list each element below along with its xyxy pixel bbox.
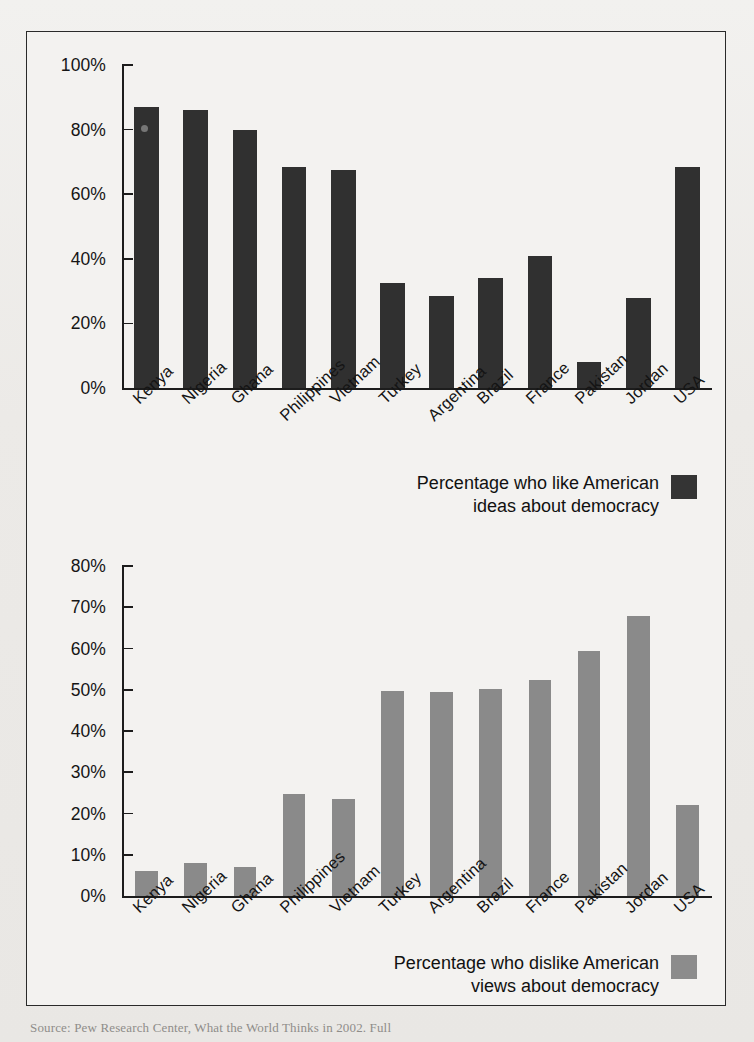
- plot-area-top: 0%20%40%60%80%100%: [122, 65, 712, 388]
- y-axis-tick-label: 60%: [36, 638, 106, 659]
- legend-swatch-dark: [671, 475, 697, 499]
- bar: [430, 692, 453, 896]
- y-axis-tick-label: 50%: [36, 679, 106, 700]
- y-axis-tick-label: 40%: [36, 721, 106, 742]
- y-axis-tick-label: 100%: [36, 55, 106, 76]
- y-axis-tick: [122, 606, 133, 608]
- y-axis-tick: [122, 854, 133, 856]
- y-axis-tick: [122, 193, 133, 195]
- y-axis-tick: [122, 129, 133, 131]
- y-axis-tick-label: 60%: [36, 184, 106, 205]
- legend-swatch-gray: [671, 955, 697, 979]
- bar: [529, 680, 552, 896]
- y-axis-tick: [122, 813, 133, 815]
- legend-bottom: Percentage who dislike American views ab…: [394, 952, 697, 997]
- y-axis-tick-label: 20%: [36, 313, 106, 334]
- y-axis-tick: [122, 565, 133, 567]
- y-axis-tick-label: 80%: [36, 556, 106, 577]
- y-axis-tick-label: 70%: [36, 597, 106, 618]
- bar: [578, 651, 601, 896]
- source-note: Source: Pew Research Center, What the Wo…: [30, 1020, 730, 1036]
- figure-frame: 0%20%40%60%80%100% KenyaNigeriaGhanaPhil…: [26, 31, 726, 1006]
- y-axis-tick: [122, 648, 133, 650]
- legend-top: Percentage who like American ideas about…: [417, 472, 697, 517]
- bar: [233, 130, 258, 388]
- y-axis-tick-label: 30%: [36, 762, 106, 783]
- y-axis-tick: [122, 64, 133, 66]
- chart-panel-top: 0%20%40%60%80%100% KenyaNigeriaGhanaPhil…: [27, 32, 725, 537]
- y-axis-tick-label: 0%: [36, 886, 106, 907]
- chart-panel-bottom: 0%10%20%30%40%50%60%70%80% KenyaNigeriaG…: [27, 522, 725, 1007]
- y-axis-tick: [122, 771, 133, 773]
- bar: [675, 167, 700, 388]
- legend-label-like: Percentage who like American ideas about…: [417, 472, 659, 517]
- y-axis-tick: [122, 258, 133, 260]
- bar: [627, 616, 650, 897]
- y-axis-tick-label: 10%: [36, 844, 106, 865]
- y-axis-tick-label: 40%: [36, 248, 106, 269]
- y-axis-tick-label: 0%: [36, 378, 106, 399]
- legend-label-dislike: Percentage who dislike American views ab…: [394, 952, 659, 997]
- bar: [381, 691, 404, 896]
- bar: [183, 110, 208, 388]
- plot-area-bottom: 0%10%20%30%40%50%60%70%80%: [122, 566, 712, 896]
- bar: [134, 107, 159, 388]
- y-axis-tick-label: 20%: [36, 803, 106, 824]
- y-axis-tick: [122, 689, 133, 691]
- y-axis-tick-label: 80%: [36, 119, 106, 140]
- y-axis-line: [122, 65, 124, 388]
- y-axis-tick: [122, 730, 133, 732]
- bar: [429, 296, 454, 388]
- y-axis-tick: [122, 323, 133, 325]
- bar: [282, 167, 307, 388]
